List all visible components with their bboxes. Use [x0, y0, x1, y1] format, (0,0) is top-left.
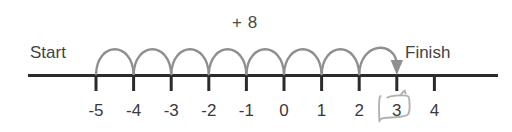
- jump-arc-5: [246, 49, 284, 74]
- jump-arc-7: [322, 49, 360, 74]
- tick-label-2: 2: [354, 101, 363, 120]
- start-label: Start: [30, 43, 66, 62]
- number-line-diagram: Start Finish + 8 -5 -4 -3 -2 -1 0 1 2 3 …: [0, 0, 512, 132]
- jump-arc-1: [96, 49, 134, 74]
- jump-arc-6: [284, 49, 322, 74]
- tick-label-neg4: -4: [126, 101, 141, 120]
- tick-label-3: 3: [392, 101, 401, 120]
- tick-label-neg5: -5: [88, 101, 103, 120]
- tick-label-4: 4: [430, 101, 439, 120]
- jump-arcs: [96, 48, 397, 74]
- tick-label-0: 0: [279, 101, 288, 120]
- jump-arc-4: [209, 49, 247, 74]
- operation-label: + 8: [232, 13, 258, 32]
- jump-arc-2: [134, 49, 172, 74]
- tick-label-neg1: -1: [239, 101, 254, 120]
- tick-label-neg2: -2: [201, 101, 216, 120]
- jump-arc-3: [171, 49, 209, 74]
- finish-label: Finish: [405, 43, 450, 62]
- tick-label-1: 1: [317, 101, 326, 120]
- jump-arrow-head: [391, 60, 403, 75]
- diagram-canvas: Start Finish + 8 -5 -4 -3 -2 -1 0 1 2 3 …: [0, 0, 512, 132]
- tick-marks: [96, 76, 434, 91]
- tick-label-neg3: -3: [164, 101, 179, 120]
